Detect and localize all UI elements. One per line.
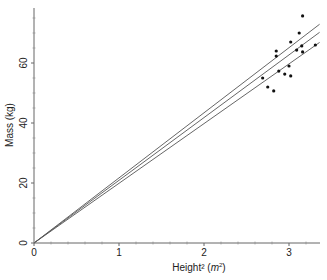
- data-point: [301, 50, 304, 53]
- axes: [34, 8, 320, 243]
- x-tick-label: 2: [201, 247, 207, 258]
- data-point: [266, 85, 269, 88]
- data-point: [301, 14, 304, 17]
- x-tick-label: 0: [31, 247, 37, 258]
- scatter-chart: 01230204060 Mass (kg) Height² (m2): [0, 0, 327, 280]
- y-tick-label: 0: [18, 240, 29, 246]
- line-lower: [34, 42, 320, 243]
- x-tick-label: 3: [286, 247, 292, 258]
- y-tick-label: 40: [18, 117, 29, 129]
- y-axis-title: Mass (kg): [4, 103, 15, 147]
- data-point: [275, 49, 278, 52]
- data-point: [289, 40, 292, 43]
- data-point: [300, 44, 303, 47]
- data-point: [295, 49, 298, 52]
- data-point: [298, 31, 301, 34]
- x-axis-title: Height² (m2): [172, 262, 225, 273]
- y-tick-label: 20: [18, 177, 29, 189]
- data-point: [277, 70, 280, 73]
- data-point: [314, 43, 317, 46]
- data-point: [283, 73, 286, 76]
- y-tick-label: 60: [18, 57, 29, 69]
- data-point: [287, 64, 290, 67]
- data-point: [272, 89, 275, 92]
- data-point: [275, 55, 278, 58]
- line-fit: [34, 32, 320, 243]
- data-points: [261, 14, 317, 92]
- data-point: [261, 76, 264, 79]
- x-tick-label: 1: [116, 247, 122, 258]
- data-point: [289, 74, 292, 77]
